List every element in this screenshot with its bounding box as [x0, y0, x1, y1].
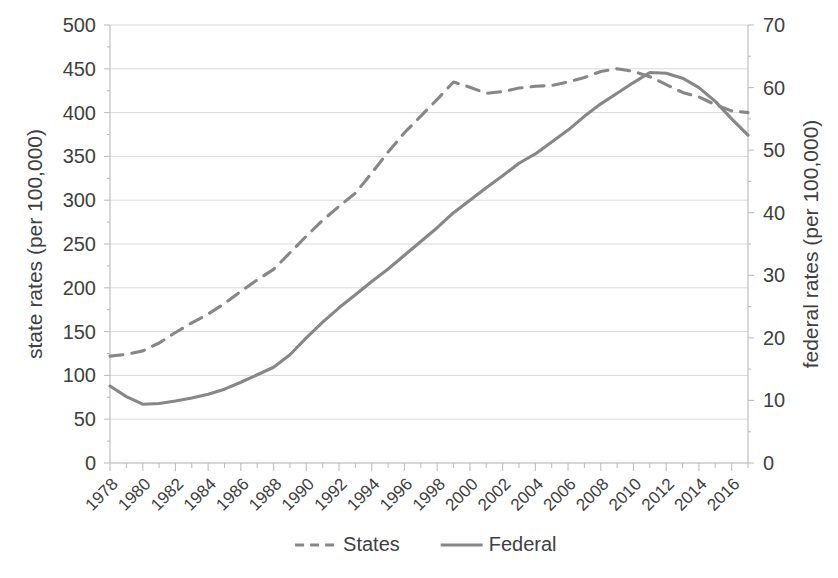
- x-axis-tick-label: 1984: [180, 474, 220, 514]
- y-axis-left-tick-label: 100: [63, 364, 96, 386]
- y-axis-left-ticks: 050100150200250300350400450500: [63, 14, 110, 474]
- y-axis-left-tick-label: 400: [63, 102, 96, 124]
- x-axis-tick-label: 1986: [213, 474, 253, 514]
- x-axis-tick-label: 1998: [409, 474, 449, 514]
- series-line-federal: [110, 73, 748, 405]
- legend: StatesFederal: [295, 533, 556, 555]
- dual-axis-line-chart: 050100150200250300350400450500 010203040…: [0, 0, 838, 578]
- gridlines-group: [110, 25, 748, 463]
- x-axis-tick-label: 1978: [82, 474, 122, 514]
- y-axis-left-tick-label: 450: [63, 58, 96, 80]
- x-axis-tick-label: 1980: [114, 474, 154, 514]
- y-axis-left-tick-label: 250: [63, 233, 96, 255]
- chart-container: 050100150200250300350400450500 010203040…: [0, 0, 838, 578]
- x-axis-tick-label: 1994: [343, 474, 383, 514]
- x-axis-tick-label: 1988: [245, 474, 285, 514]
- y-axis-right-tick-label: 10: [763, 389, 785, 411]
- y-axis-left-tick-label: 500: [63, 14, 96, 36]
- y-axis-right-tick-label: 0: [763, 452, 774, 474]
- legend-label-federal: Federal: [489, 533, 557, 555]
- legend-label-states: States: [343, 533, 400, 555]
- x-axis-tick-label: 2002: [474, 474, 514, 514]
- series-group: [110, 69, 748, 404]
- x-axis-ticks: [110, 463, 748, 471]
- x-axis-tick-label: 2008: [572, 474, 612, 514]
- x-axis-tick-label: 2006: [540, 474, 580, 514]
- x-axis-tick-label: 2010: [605, 474, 645, 514]
- x-axis-tick-label: 1982: [147, 474, 187, 514]
- y-axis-left-tick-label: 0: [85, 452, 96, 474]
- y-axis-left-tick-label: 50: [74, 408, 96, 430]
- x-axis-tick-label: 1996: [376, 474, 416, 514]
- x-axis-tick-label: 2012: [638, 474, 678, 514]
- y-axis-right-tick-label: 40: [763, 202, 785, 224]
- x-axis-tick-label: 1992: [311, 474, 351, 514]
- y-axis-right-title: federal rates (per 100,000): [799, 120, 822, 369]
- x-axis-tick-label: 1990: [278, 474, 318, 514]
- y-axis-left-title: state rates (per 100,000): [23, 129, 46, 359]
- x-axis-tick-label: 2016: [703, 474, 743, 514]
- y-axis-right-tick-label: 30: [763, 264, 785, 286]
- y-axis-right-ticks: 010203040506070: [748, 14, 785, 474]
- y-axis-left-tick-label: 300: [63, 189, 96, 211]
- y-axis-right-tick-label: 50: [763, 139, 785, 161]
- series-line-states: [110, 69, 748, 356]
- y-axis-right-tick-label: 70: [763, 14, 785, 36]
- y-axis-left-tick-label: 150: [63, 321, 96, 343]
- y-axis-left-tick-label: 350: [63, 145, 96, 167]
- x-axis-tick-label: 2014: [671, 474, 711, 514]
- y-axis-right-tick-label: 20: [763, 327, 785, 349]
- x-axis-tick-labels: 1978198019821984198619881990199219941996…: [82, 474, 744, 514]
- x-axis-tick-label: 2000: [442, 474, 482, 514]
- y-axis-right-tick-label: 60: [763, 77, 785, 99]
- x-axis-tick-label: 2004: [507, 474, 547, 514]
- y-axis-left-tick-label: 200: [63, 277, 96, 299]
